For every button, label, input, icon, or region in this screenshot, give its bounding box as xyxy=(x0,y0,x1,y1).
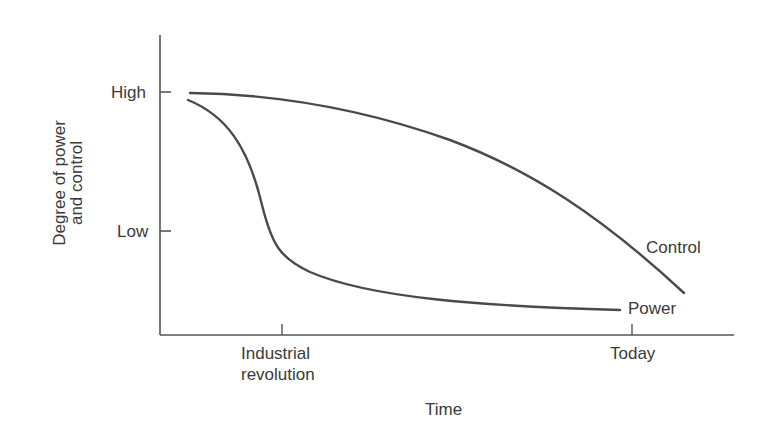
series-label-power: Power xyxy=(628,300,676,317)
y-tick-label-low: Low xyxy=(117,223,148,240)
control-line xyxy=(190,93,684,293)
x-axis-title: Time xyxy=(425,401,462,418)
power-line xyxy=(188,100,620,310)
y-axis-title: Degree of power and control xyxy=(51,120,85,246)
x-tick-label-industrial-line1: Industrial xyxy=(241,345,310,362)
y-tick-label-high: High xyxy=(111,84,146,101)
series-label-control: Control xyxy=(646,239,701,256)
x-tick-label-today: Today xyxy=(610,345,655,362)
y-axis-title-line1: Degree of power xyxy=(51,120,68,246)
chart-canvas xyxy=(0,0,774,442)
y-axis-title-line2: and control xyxy=(68,120,85,246)
x-tick-label-industrial-line2: revolution xyxy=(241,366,315,383)
